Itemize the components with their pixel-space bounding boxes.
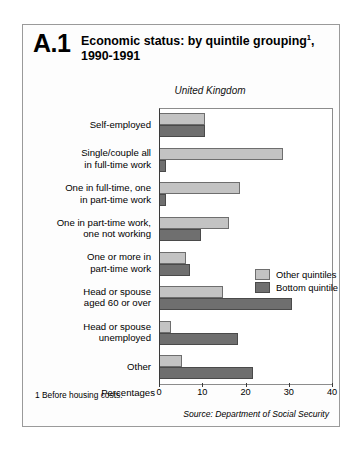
bar-bottom-quintile xyxy=(160,194,166,206)
legend-swatch xyxy=(255,269,270,280)
bar-group xyxy=(160,178,332,213)
bar-group xyxy=(160,109,332,144)
bar-bottom-quintile xyxy=(160,333,238,345)
bar-group xyxy=(160,351,332,386)
region-label-text: United Kingdom xyxy=(174,85,245,96)
bar-other-quintiles xyxy=(160,217,229,229)
bar-other-quintiles xyxy=(160,355,182,367)
category-label: Single/couple allin full-time work xyxy=(27,147,151,170)
page-title: Economic status: by quintile grouping1, … xyxy=(81,34,333,64)
x-tick-label: 0 xyxy=(156,387,161,397)
chart-legend: Other quintilesBottom quintile xyxy=(255,268,359,294)
category-label: Other xyxy=(27,361,151,373)
figure-number: A.1 xyxy=(33,31,70,56)
bar-bottom-quintile xyxy=(160,125,205,137)
footnote-text: 1 Before housing costs. xyxy=(35,390,123,400)
legend-label: Other quintiles xyxy=(276,268,336,281)
bar-other-quintiles xyxy=(160,182,240,194)
bar-other-quintiles xyxy=(160,252,186,264)
legend-item: Bottom quintile xyxy=(255,281,359,294)
source-text: Source: Department of Social Security xyxy=(183,409,329,419)
x-tick-label: 10 xyxy=(197,387,207,397)
bar-group xyxy=(160,317,332,352)
category-label: Head or spouseaged 60 or over xyxy=(27,286,151,309)
bar-other-quintiles xyxy=(160,113,205,125)
figure-title-line1: Economic status: by quintile grouping xyxy=(81,34,307,48)
figure-card: A.1 Economic status: by quintile groupin… xyxy=(22,24,340,427)
bar-other-quintiles xyxy=(160,286,223,298)
bar-bottom-quintile xyxy=(160,367,253,379)
chart-plot-area xyxy=(159,108,333,385)
category-label: One in full-time, onein part-time work xyxy=(27,182,151,205)
bar-bottom-quintile xyxy=(160,160,166,172)
x-axis-tick-labels: 010203040 xyxy=(159,387,333,401)
bar-group xyxy=(160,144,332,179)
bar-bottom-quintile xyxy=(160,298,292,310)
figure-title-line2: 1990-1991 xyxy=(81,49,140,63)
legend-label: Bottom quintile xyxy=(276,281,338,294)
bar-group xyxy=(160,213,332,248)
region-label: United Kingdom xyxy=(23,85,341,96)
category-label: Head or spouseunemployed xyxy=(27,321,151,344)
bar-bottom-quintile xyxy=(160,229,201,241)
category-label: One in part-time work,one not working xyxy=(27,217,151,240)
category-axis-labels: Self-employedSingle/couple allin full-ti… xyxy=(29,108,155,385)
bar-other-quintiles xyxy=(160,148,283,160)
legend-swatch xyxy=(255,282,270,293)
category-label: Self-employed xyxy=(27,119,151,131)
category-label: One or more inpart-time work xyxy=(27,251,151,274)
figure-header: A.1 Economic status: by quintile groupin… xyxy=(23,25,339,83)
x-tick-label: 40 xyxy=(327,387,337,397)
bar-other-quintiles xyxy=(160,321,171,333)
bar-bottom-quintile xyxy=(160,264,190,276)
figure-title-comma: , xyxy=(311,34,314,48)
x-tick-label: 20 xyxy=(240,387,250,397)
legend-item: Other quintiles xyxy=(255,268,359,281)
x-tick-label: 30 xyxy=(284,387,294,397)
